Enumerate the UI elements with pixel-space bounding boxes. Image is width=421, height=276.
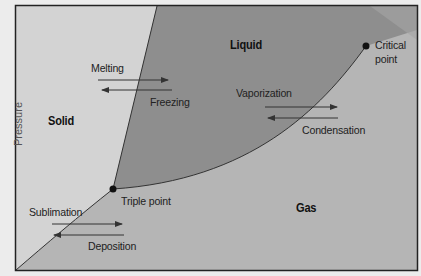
sublimation-label: Sublimation [29,206,82,218]
vaporization-label: Vaporization [236,87,292,99]
critical-point-label-line1: Critical [375,39,406,51]
gas-label: Gas [296,201,316,215]
liquid-label: Liquid [230,38,262,52]
triple-point-marker [110,186,117,193]
freezing-label: Freezing [150,96,190,108]
condensation-label: Condensation [302,124,365,136]
y-axis-label: Pressure [12,94,24,154]
solid-label: Solid [48,114,74,128]
critical-point-marker [363,43,370,50]
critical-point-label-line2: point [375,53,397,65]
melting-label: Melting [91,62,124,74]
phase-diagram [0,0,421,276]
deposition-label: Deposition [88,240,136,252]
triple-point-label: Triple point [121,195,171,207]
